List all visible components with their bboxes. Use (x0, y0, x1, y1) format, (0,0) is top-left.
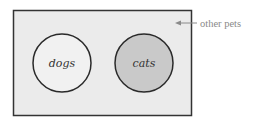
other-pets-label: other pets (200, 18, 241, 29)
dogs-label: dogs (49, 57, 76, 70)
cats-label: cats (133, 57, 156, 70)
venn-diagram: dogs cats other pets (0, 0, 257, 124)
set-dogs: dogs (33, 34, 91, 92)
set-cats: cats (115, 34, 173, 92)
